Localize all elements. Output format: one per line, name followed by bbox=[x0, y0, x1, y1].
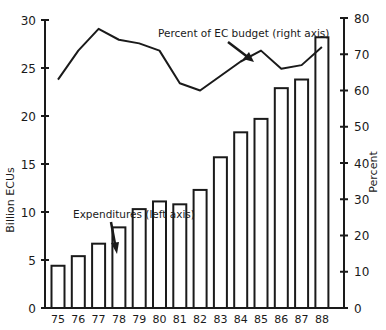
left-tick-label: 5 bbox=[28, 254, 36, 268]
annotation-expenditures: Expenditures (left axis) bbox=[73, 208, 195, 220]
x-tick-label: 81 bbox=[173, 313, 187, 326]
x-tick-label: 77 bbox=[92, 313, 106, 326]
x-tick-label: 76 bbox=[71, 313, 85, 326]
x-tick-label: 85 bbox=[254, 313, 268, 326]
right-axis-title: Percent bbox=[367, 151, 380, 193]
x-tick-label: 80 bbox=[153, 313, 167, 326]
bar-75 bbox=[52, 266, 65, 308]
bar-76 bbox=[72, 256, 85, 308]
bar-87 bbox=[295, 80, 308, 308]
left-tick-label: 25 bbox=[21, 62, 36, 76]
right-tick-label: 70 bbox=[354, 48, 369, 62]
x-tick-label: 78 bbox=[112, 313, 126, 326]
bar-85 bbox=[255, 119, 268, 308]
expenditure-bars bbox=[52, 37, 329, 308]
bar-86 bbox=[275, 88, 288, 308]
right-tick-label: 80 bbox=[354, 12, 369, 26]
left-axis-title: Billion ECUs bbox=[4, 167, 17, 233]
bar-82 bbox=[194, 190, 207, 308]
bar-79 bbox=[133, 209, 146, 308]
chart: 0510152025300102030405060708075767778798… bbox=[0, 0, 386, 330]
annotation-percent-budget: Percent of EC budget (right axis) bbox=[158, 27, 329, 39]
bar-84 bbox=[234, 132, 247, 308]
bar-83 bbox=[214, 157, 227, 308]
x-tick-label: 79 bbox=[132, 313, 146, 326]
right-tick-label: 10 bbox=[354, 265, 369, 279]
right-tick-label: 30 bbox=[354, 193, 369, 207]
right-tick-label: 20 bbox=[354, 229, 369, 243]
x-tick-label: 84 bbox=[234, 313, 248, 326]
x-tick-label: 88 bbox=[315, 313, 329, 326]
bar-88 bbox=[315, 37, 328, 308]
x-tick-label: 87 bbox=[295, 313, 309, 326]
left-tick-label: 30 bbox=[21, 14, 36, 28]
x-tick-label: 75 bbox=[51, 313, 65, 326]
left-tick-label: 10 bbox=[21, 206, 36, 220]
right-tick-label: 60 bbox=[354, 84, 369, 98]
left-tick-label: 0 bbox=[28, 302, 36, 316]
left-tick-label: 15 bbox=[21, 158, 36, 172]
left-tick-label: 20 bbox=[21, 110, 36, 124]
bar-77 bbox=[92, 244, 105, 308]
x-tick-label: 83 bbox=[213, 313, 227, 326]
x-tick-label: 82 bbox=[193, 313, 207, 326]
x-tick-label: 86 bbox=[274, 313, 288, 326]
right-tick-label: 0 bbox=[354, 302, 362, 316]
right-tick-label: 50 bbox=[354, 120, 369, 134]
